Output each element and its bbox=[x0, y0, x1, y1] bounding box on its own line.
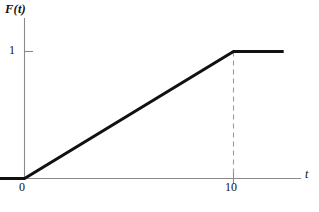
figure-cdf-plot: F(t) 1 0 10 t bbox=[0, 0, 319, 212]
y-axis-label: F(t) bbox=[5, 3, 26, 16]
x-tick-label-0: 0 bbox=[19, 181, 25, 193]
x-tick-label-10: 10 bbox=[225, 181, 237, 193]
y-tick-label-1: 1 bbox=[9, 44, 15, 56]
cdf-curve bbox=[0, 52, 284, 179]
plot-area bbox=[0, 0, 319, 212]
x-axis-label: t bbox=[305, 168, 308, 180]
